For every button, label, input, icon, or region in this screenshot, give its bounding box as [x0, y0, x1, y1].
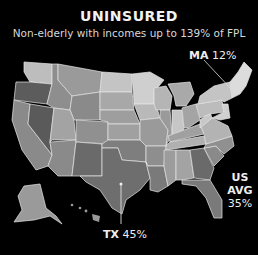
us-avg-value: 35%: [228, 197, 252, 210]
us-avg-callout: US AVG 35%: [222, 171, 258, 210]
state-sd: [100, 92, 134, 110]
us-choropleth-map: [0, 0, 258, 255]
tx-callout: TX 45%: [103, 228, 147, 241]
state-az: [48, 140, 76, 176]
state-mi: [168, 82, 194, 106]
state-hi: [71, 204, 100, 222]
state-wi: [154, 86, 172, 110]
tx-value: 45%: [122, 228, 146, 241]
state-nd: [100, 72, 132, 92]
ma-state-label: MA: [189, 49, 208, 62]
ma-callout: MA 12%: [189, 49, 236, 62]
state-or: [14, 82, 52, 104]
us-avg-label: US AVG: [227, 171, 252, 197]
state-ak: [14, 184, 62, 224]
state-nm: [72, 142, 102, 176]
state-ks: [108, 124, 140, 140]
state-wy: [70, 92, 100, 120]
state-ny: [198, 82, 232, 104]
ma-value: 12%: [212, 49, 236, 62]
state-ne-states: [230, 62, 252, 98]
state-ar: [146, 146, 166, 166]
state-wa: [24, 62, 52, 84]
state-co: [76, 120, 108, 144]
tx-state-label: TX: [103, 228, 119, 241]
state-fl: [182, 180, 222, 218]
